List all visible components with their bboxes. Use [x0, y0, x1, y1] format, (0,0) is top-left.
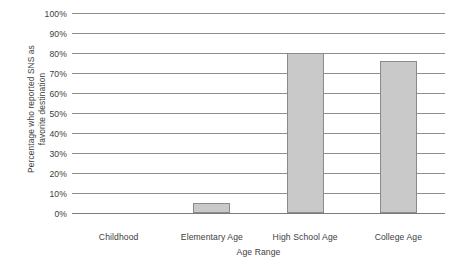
gridline: 0% — [72, 213, 445, 214]
y-tick-label: 70% — [49, 69, 67, 79]
y-axis-title-line-2: favorite destination — [37, 18, 48, 200]
bar — [193, 203, 230, 213]
y-tick-label: 60% — [49, 89, 67, 99]
x-tick-label: Elementary Age — [181, 232, 243, 242]
y-tick-label: 0% — [54, 209, 67, 219]
y-tick-label: 30% — [49, 149, 67, 159]
x-axis-title: Age Range — [72, 247, 445, 257]
x-tick-label: Childhood — [99, 232, 139, 242]
y-axis-title: Percentage who reported SNS as favorite … — [12, 0, 42, 18]
gridline: 80% — [72, 53, 445, 54]
plot-area: 0%10%20%30%40%50%60%70%80%90%100% Childh… — [72, 13, 445, 213]
y-tick-label: 20% — [49, 169, 67, 179]
x-tick-label: College Age — [375, 232, 422, 242]
gridline: 90% — [72, 33, 445, 34]
gridline: 100% — [72, 13, 445, 14]
y-tick-label: 50% — [49, 109, 67, 119]
y-axis-title-line-1: Percentage who reported SNS as — [26, 18, 37, 200]
bar — [380, 61, 417, 213]
y-tick-label: 100% — [45, 9, 67, 19]
y-tick-label: 90% — [49, 29, 67, 39]
bar — [287, 53, 324, 213]
y-tick-label: 80% — [49, 49, 67, 59]
y-tick-label: 10% — [49, 189, 67, 199]
x-tick-label: High School Age — [273, 232, 338, 242]
y-tick-label: 40% — [49, 129, 67, 139]
